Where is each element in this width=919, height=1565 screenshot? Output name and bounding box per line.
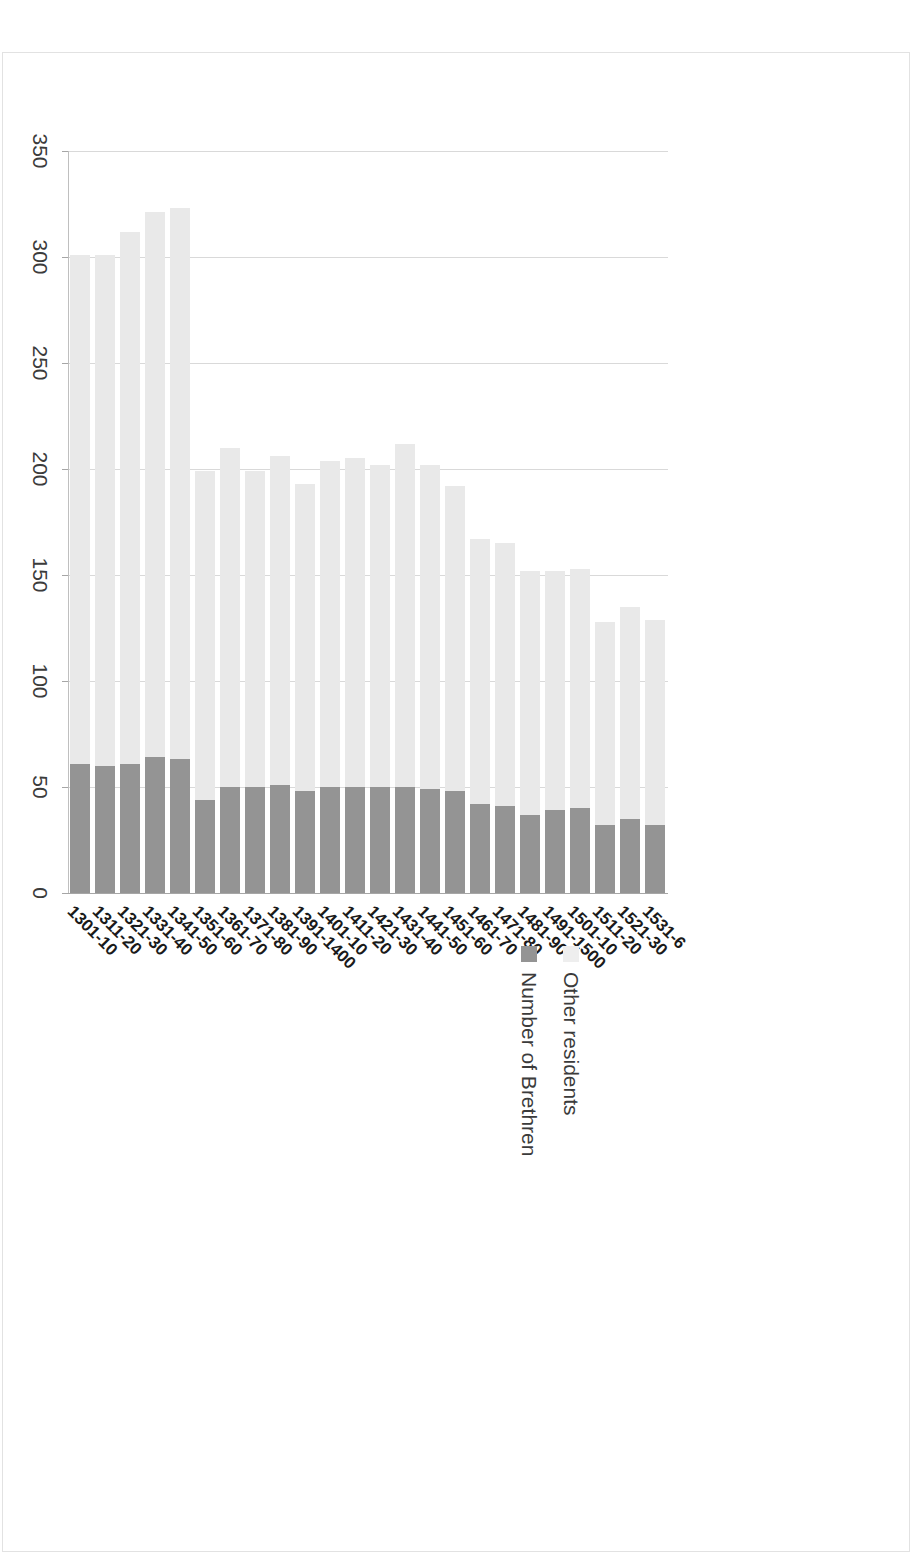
value-tick-label-200: 200 (28, 424, 52, 514)
bar-segment-other-residents (620, 606, 640, 818)
value-tick-350 (62, 151, 68, 152)
bar-row (195, 151, 215, 893)
bar-row (320, 151, 340, 893)
bar-segment-other-residents (170, 208, 190, 759)
bar-segment-other-residents (320, 460, 340, 786)
bar-segment-number-of-brethren (520, 814, 540, 892)
bar-segment-number-of-brethren (395, 787, 415, 893)
bar-row (520, 151, 540, 893)
bar-segment-number-of-brethren (70, 763, 90, 892)
plot-area (68, 151, 668, 893)
bar-segment-number-of-brethren (470, 803, 490, 892)
bar-segment-number-of-brethren (420, 789, 440, 893)
bar-segment-number-of-brethren (320, 787, 340, 893)
bar-row (395, 151, 415, 893)
bar-segment-other-residents (95, 254, 115, 765)
bar-segment-number-of-brethren (120, 763, 140, 892)
bar-segment-number-of-brethren (345, 787, 365, 893)
bar-segment-other-residents (520, 570, 540, 814)
bar-segment-number-of-brethren (195, 799, 215, 892)
bar-row (295, 151, 315, 893)
bar-segment-number-of-brethren (145, 757, 165, 893)
bar-segment-other-residents (145, 212, 165, 757)
bar-segment-other-residents (195, 471, 215, 800)
bar-segment-other-residents (70, 254, 90, 763)
legend-item-other-residents: Other residents (559, 946, 583, 1156)
bar-segment-other-residents (120, 231, 140, 763)
value-tick-250 (62, 363, 68, 364)
bar-segment-other-residents (295, 483, 315, 790)
bar-row (420, 151, 440, 893)
bar-segment-other-residents (395, 443, 415, 786)
bar-row (245, 151, 265, 893)
bar-segment-other-residents (270, 456, 290, 785)
chart-figure-frame: 050100150200250300350 1301-101311-201321… (2, 52, 910, 1552)
bar-segment-number-of-brethren (645, 825, 665, 893)
chart-legend: Other residents Number of Brethren (499, 946, 583, 1156)
bar-segment-number-of-brethren (295, 791, 315, 893)
bar-row (95, 151, 115, 893)
bar-segment-other-residents (245, 471, 265, 787)
value-tick-300 (62, 257, 68, 258)
legend-label-number-of-brethren: Number of Brethren (517, 972, 541, 1156)
bar-row (470, 151, 490, 893)
value-tick-label-100: 100 (28, 636, 52, 726)
bar-segment-number-of-brethren (170, 759, 190, 893)
bar-row (595, 151, 615, 893)
bar-segment-other-residents (470, 538, 490, 803)
bar-segment-number-of-brethren (620, 818, 640, 892)
bar-row (645, 151, 665, 893)
bar-row (120, 151, 140, 893)
legend-label-other-residents: Other residents (559, 972, 583, 1116)
bar-row (495, 151, 515, 893)
bar-segment-other-residents (420, 464, 440, 788)
bar-segment-number-of-brethren (95, 765, 115, 892)
number-of-brethren-swatch (521, 946, 537, 962)
category-axis-line (68, 151, 69, 893)
bar-segment-number-of-brethren (270, 784, 290, 892)
bar-row (145, 151, 165, 893)
chart-canvas: 050100150200250300350 1301-101311-201321… (13, 86, 913, 1565)
value-tick-0 (62, 893, 68, 894)
bar-segment-other-residents (645, 619, 665, 825)
bar-segment-number-of-brethren (370, 787, 390, 893)
value-tick-label-50: 50 (28, 742, 52, 832)
bar-segment-other-residents (220, 447, 240, 786)
bar-segment-other-residents (345, 458, 365, 787)
bar-segment-number-of-brethren (595, 825, 615, 893)
bar-segment-other-residents (595, 621, 615, 825)
bar-row (170, 151, 190, 893)
bar-segment-number-of-brethren (245, 787, 265, 893)
bar-row (545, 151, 565, 893)
value-tick-200 (62, 469, 68, 470)
bar-segment-other-residents (445, 485, 465, 790)
bar-row (220, 151, 240, 893)
value-tick-150 (62, 575, 68, 576)
bar-segment-other-residents (545, 570, 565, 810)
value-tick-50 (62, 787, 68, 788)
bar-segment-other-residents (495, 543, 515, 806)
bar-row (345, 151, 365, 893)
bar-segment-number-of-brethren (545, 810, 565, 893)
value-tick-label-250: 250 (28, 318, 52, 408)
bar-segment-number-of-brethren (570, 808, 590, 893)
other-residents-swatch (563, 946, 579, 962)
value-tick-100 (62, 681, 68, 682)
bar-row (570, 151, 590, 893)
legend-item-number-of-brethren: Number of Brethren (517, 946, 541, 1156)
bar-segment-number-of-brethren (220, 787, 240, 893)
bar-row (70, 151, 90, 893)
value-tick-label-300: 300 (28, 212, 52, 302)
value-tick-label-0: 0 (28, 848, 52, 938)
value-tick-label-150: 150 (28, 530, 52, 620)
rotated-chart-host: 050100150200250300350 1301-101311-201321… (3, 53, 919, 1565)
value-tick-label-350: 350 (28, 106, 52, 196)
bar-row (445, 151, 465, 893)
bar-segment-other-residents (370, 464, 390, 786)
bar-row (270, 151, 290, 893)
bar-segment-other-residents (570, 568, 590, 808)
bar-segment-number-of-brethren (495, 806, 515, 893)
bar-row (370, 151, 390, 893)
bar-segment-number-of-brethren (445, 791, 465, 893)
bar-row (620, 151, 640, 893)
